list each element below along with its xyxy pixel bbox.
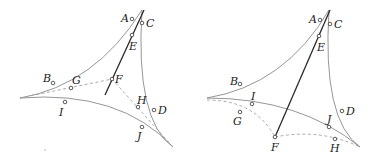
point-j [140,125,144,129]
label-j: J [135,130,142,143]
curve-right [328,10,360,147]
point-g [238,110,242,114]
label-e: E [128,40,137,53]
label-c: C [334,18,343,31]
point-h [333,137,337,141]
label-f: F [270,141,279,154]
point-a [318,18,322,22]
label-e: E [316,41,325,54]
label-f: F [114,73,123,86]
label-j: J [325,113,332,126]
label-d: D [345,105,355,118]
label-c: C [146,17,155,30]
label-a: A [308,13,317,26]
label-d: D [157,104,167,117]
point-c [140,21,144,25]
label-i: I [250,90,256,103]
point-f [273,135,277,139]
point-b [51,81,55,85]
stray-dot [44,149,46,151]
right-figure: A C E B I G F J D H [207,10,360,155]
label-g: G [233,115,242,128]
point-d [152,108,156,112]
point-b [238,82,242,86]
point-a [130,17,134,21]
label-i: I [58,106,64,119]
dashed-right-curve [275,134,360,147]
label-a: A [120,12,129,25]
point-i [63,100,67,104]
label-h: H [329,142,340,155]
point-e [130,33,134,37]
label-g: G [72,74,81,87]
point-d [340,109,344,113]
left-figure: A C E F G B I H D J [20,10,173,151]
point-f [110,77,114,81]
curve-right [141,10,173,147]
thick-line [275,10,330,137]
label-b: B [42,72,51,85]
diagram-canvas: A C E F G B I H D J A C E B I G F [0,0,377,162]
label-h: H [136,94,147,107]
point-c [328,22,332,26]
point-e [317,34,321,38]
label-b: B [229,75,238,88]
